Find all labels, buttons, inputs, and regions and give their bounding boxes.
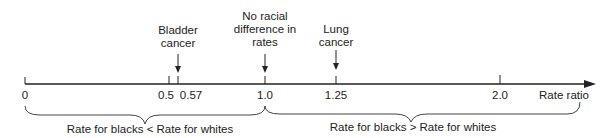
brace-label-left: Rate for blacks < Rate for whites — [60, 123, 240, 136]
tick-label-1.25: 1.25 — [320, 89, 352, 102]
axis-label: Rate ratio — [528, 89, 600, 102]
tick-label-2.0: 2.0 — [488, 89, 512, 102]
brace-label-right: Rate for blacks > Rate for whites — [318, 121, 508, 134]
tick-label-0.5: 0.5 — [154, 89, 178, 102]
brace-right — [265, 102, 580, 122]
axis-arrowhead — [584, 80, 596, 88]
brace-left — [25, 106, 265, 124]
tick-label-1.0: 1.0 — [253, 89, 277, 102]
annotation-no-difference: No racial difference in rates — [225, 10, 305, 49]
annotation-bladder: Bladder cancer — [148, 24, 208, 50]
lung-arrowhead-icon — [333, 63, 339, 70]
tick-label-0: 0 — [15, 89, 35, 102]
tick-label-0.57: 0.57 — [177, 89, 205, 102]
bladder-arrowhead-icon — [175, 66, 181, 73]
annotation-lung: Lung cancer — [306, 23, 366, 49]
no-difference-arrowhead-icon — [262, 66, 268, 73]
